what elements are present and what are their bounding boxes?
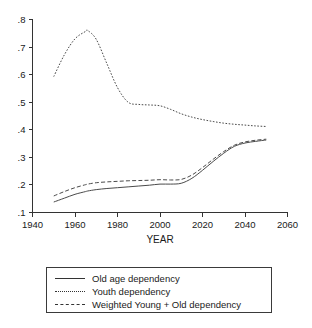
chart-figure: .1.2.3.4.5.6.7.8 19401960198020002020204… xyxy=(0,0,312,328)
x-axis: 1940196019802000202020402060 xyxy=(22,213,298,230)
x-tick-label: 2000 xyxy=(149,219,170,230)
legend-line-dashed-icon xyxy=(55,300,85,310)
x-tick-label: 1960 xyxy=(64,219,85,230)
y-tick-label: .5 xyxy=(18,97,26,108)
legend-label: Youth dependency xyxy=(92,286,170,297)
y-tick-label: .4 xyxy=(18,124,26,135)
x-axis-ticks: 1940196019802000202020402060 xyxy=(22,213,298,230)
data-series-group xyxy=(54,30,267,202)
legend-item-youth-dependency: Youth dependency xyxy=(55,285,271,298)
x-tick-label: 2060 xyxy=(277,219,298,230)
legend-label: Weighted Young + Old dependency xyxy=(92,299,241,310)
y-axis-ticks: .1.2.3.4.5.6.7.8 xyxy=(18,14,33,218)
y-tick-label: .6 xyxy=(18,69,26,80)
chart-legend: Old age dependency Youth dependency Weig… xyxy=(46,267,272,313)
x-tick-label: 1940 xyxy=(22,219,43,230)
y-tick-label: .2 xyxy=(18,179,26,190)
x-tick-label: 2040 xyxy=(234,219,255,230)
legend-item-weighted-dependency: Weighted Young + Old dependency xyxy=(55,298,271,311)
legend-label: Old age dependency xyxy=(92,273,180,284)
series-line xyxy=(54,30,267,127)
series-line xyxy=(54,140,267,202)
legend-item-old-age-dependency: Old age dependency xyxy=(55,272,271,285)
y-tick-label: .7 xyxy=(18,42,26,53)
legend-line-solid-icon xyxy=(55,274,85,284)
y-tick-label: .3 xyxy=(18,152,26,163)
y-tick-label: .8 xyxy=(18,14,26,25)
y-axis: .1.2.3.4.5.6.7.8 xyxy=(18,14,33,218)
x-tick-label: 1980 xyxy=(107,219,128,230)
x-axis-title: YEAR xyxy=(146,234,173,245)
legend-line-dotted-icon xyxy=(55,287,85,297)
line-chart-plot: .1.2.3.4.5.6.7.8 19401960198020002020204… xyxy=(0,0,312,260)
y-tick-label: .1 xyxy=(18,207,26,218)
series-line xyxy=(54,139,267,196)
x-tick-label: 2020 xyxy=(192,219,213,230)
